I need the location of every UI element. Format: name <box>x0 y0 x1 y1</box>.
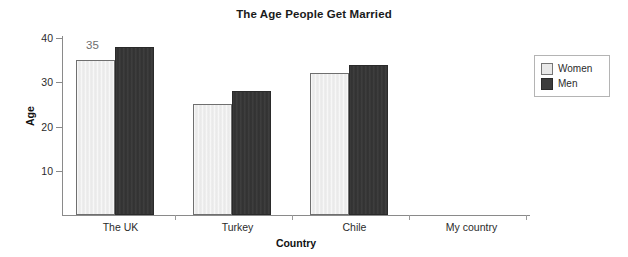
bar-women-the-uk <box>76 60 115 215</box>
x-axis-tick <box>409 215 410 220</box>
category-label-chile: Chile <box>343 221 367 233</box>
legend-item-men: Men <box>541 76 603 91</box>
chart-title: The Age People Get Married <box>0 8 628 20</box>
bar-men-the-uk <box>115 47 154 215</box>
y-axis-tick <box>56 82 62 83</box>
legend-swatch-men-icon <box>541 78 553 90</box>
y-axis-tick-label: 30 <box>41 76 53 88</box>
bar-men-turkey <box>232 91 271 215</box>
y-axis-tick-label: 40 <box>41 32 53 44</box>
data-label: 35 <box>86 39 99 51</box>
bar-women-chile <box>310 73 349 215</box>
x-axis-line <box>62 215 530 216</box>
y-axis-tick <box>56 171 62 172</box>
y-axis-title: Age <box>24 106 36 126</box>
plot-area: 10203040 35 <box>62 36 530 216</box>
legend-swatch-women-icon <box>541 63 553 75</box>
bar-chart: The Age People Get Married Age Country 1… <box>0 0 628 257</box>
y-axis-tick <box>56 127 62 128</box>
x-axis-tick <box>292 215 293 220</box>
legend-item-women: Women <box>541 61 603 76</box>
y-axis-tick-label: 20 <box>41 121 53 133</box>
bar-men-chile <box>349 65 388 215</box>
category-label-the-uk: The UK <box>103 221 139 233</box>
x-axis-title: Country <box>62 237 530 249</box>
x-axis-tick <box>526 215 527 220</box>
bar-women-turkey <box>193 104 232 215</box>
legend-label: Women <box>558 63 592 75</box>
y-axis-line <box>62 36 63 216</box>
y-axis-tick-label: 10 <box>41 165 53 177</box>
category-label-turkey: Turkey <box>222 221 254 233</box>
legend-label: Men <box>558 78 577 90</box>
x-axis-tick <box>175 215 176 220</box>
y-axis-tick <box>56 38 62 39</box>
chart-legend: WomenMen <box>534 55 610 97</box>
category-label-my-country: My country <box>446 221 497 233</box>
